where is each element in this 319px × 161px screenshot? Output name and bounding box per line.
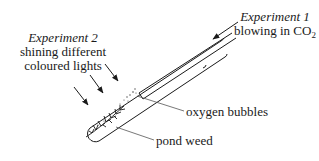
weed-leader <box>116 127 154 140</box>
delivery-tube <box>139 33 236 99</box>
experiment-2-line1: shining different <box>18 45 108 59</box>
light-arrow-2 <box>90 75 103 93</box>
experiment-2-line2: coloured lights <box>18 59 108 73</box>
pond-weed <box>86 105 125 137</box>
pond-weed-label: pond weed <box>156 134 213 148</box>
oxygen-bubbles-label: oxygen bubbles <box>186 105 268 119</box>
experiment-1-label: Experiment 1 blowing in CO2 <box>230 10 319 38</box>
experiment-1-description: blowing in CO2 <box>230 24 319 38</box>
experiment-2-title: Experiment 2 <box>18 31 108 45</box>
co2-subscript: 2 <box>311 30 316 40</box>
experiment-1-text: blowing in CO <box>234 23 311 38</box>
bubbles-leader <box>137 96 184 111</box>
experiment-2-label: Experiment 2 shining different coloured … <box>18 31 108 73</box>
light-arrow-1 <box>74 87 88 105</box>
experiment-1-title: Experiment 1 <box>230 10 319 24</box>
